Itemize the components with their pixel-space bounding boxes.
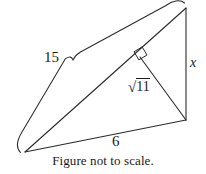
hypotenuse-length-label: 15 <box>44 50 59 65</box>
radical-sign-icon: √ <box>128 79 136 95</box>
radicand-value: 11 <box>136 78 150 94</box>
geometry-figure: 15 6 x √11 Figure not to scale. <box>0 0 206 174</box>
vertical-side-length-label: x <box>190 56 196 70</box>
altitude-length-label: √11 <box>128 80 150 95</box>
hypotenuse-brace-icon <box>17 1 184 153</box>
triangle-side-hypotenuse <box>25 8 186 152</box>
triangle-drawing <box>0 0 206 174</box>
figure-caption: Figure not to scale. <box>0 153 206 169</box>
triangle-side-base <box>25 120 186 152</box>
base-length-label: 6 <box>112 134 120 149</box>
